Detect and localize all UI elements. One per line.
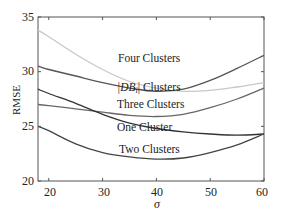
y-axis-label: RMSE [10, 85, 22, 115]
ytick-label-20: 20 [22, 174, 34, 188]
label-four-clusters: Four Clusters [118, 52, 181, 64]
series-lines [38, 30, 264, 159]
x-axis-label: σ [154, 197, 161, 211]
ytick-label-35: 35 [22, 10, 34, 24]
label-one-cluster: One Cluster [117, 121, 172, 133]
db-suffix: | Clusters [138, 81, 181, 94]
db-prefix: |DB [117, 81, 136, 94]
label-three-clusters: Three Clusters [117, 98, 185, 110]
ytick-label-30: 30 [22, 64, 34, 78]
xtick-label-20: 20 [44, 185, 56, 199]
label-two-clusters: Two Clusters [119, 143, 180, 155]
ytick-label-25: 25 [22, 119, 34, 133]
label-db-clusters: |DBi| Clusters [117, 81, 181, 95]
xtick-label-60: 60 [256, 185, 268, 199]
rmse-vs-sigma-chart: 35 30 25 20 20 30 40 50 60 σ RMSE Four C… [0, 0, 284, 213]
xtick-label-30: 30 [98, 185, 110, 199]
xtick-label-50: 50 [205, 185, 217, 199]
